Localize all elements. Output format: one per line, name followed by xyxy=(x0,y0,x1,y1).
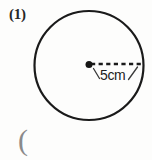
radius-measurement-label: 5cm xyxy=(100,68,125,82)
stray-parenthesis-mark: ( xyxy=(18,125,28,155)
center-point-dot xyxy=(86,61,93,68)
figure-canvas: (1) 5cm ( xyxy=(0,0,152,160)
leader-tick-left-icon xyxy=(94,69,100,79)
leader-tick-right-icon xyxy=(129,67,138,80)
